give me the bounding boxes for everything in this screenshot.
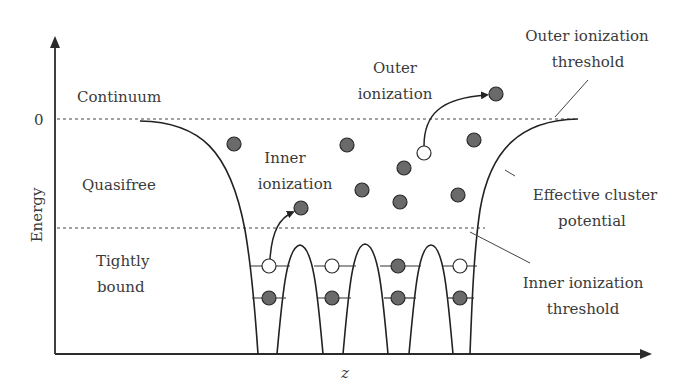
continuum-electron [489,87,503,101]
quasifree-electron [294,201,308,215]
outer-threshold-label-2: threshold [552,53,625,71]
effective-potential-leader [505,170,515,176]
inner-barrier-1 [277,245,323,354]
bound-filled-electron [391,291,405,305]
effective-cluster-potential-right [470,119,578,354]
effective-potential-label-1: Effective cluster [533,186,658,204]
cluster-ionization-diagram: 0 Energy z Continuum Quasifree Tightly b… [0,0,690,390]
inner-threshold-leader [470,232,530,263]
quasifree-electron [340,138,354,152]
quasifree-electron [227,137,241,151]
bound-filled-electron [325,291,339,305]
bound-filled-electron [391,259,405,273]
bound-empty-state [453,259,467,273]
bound-empty-state [262,259,276,273]
outer-ionization-label-2: ionization [358,85,433,103]
inner-threshold-label-1: Inner ionization [523,274,644,292]
effective-potential-label-2: potential [558,212,626,230]
quasifree-electron [397,161,411,175]
bound-empty-state [325,259,339,273]
inner-barrier-2 [343,244,388,354]
inner-ionization-arrow [270,212,293,259]
bound-filled-electron [453,291,467,305]
tightly-bound-label-2: bound [97,278,145,296]
quasifree-electron [467,133,481,147]
inner-threshold-label-2: threshold [547,300,620,318]
effective-cluster-potential-left [140,121,258,354]
outer-ionization-label-1: Outer [373,59,418,77]
quasifree-electron [451,188,465,202]
z-axis-label: z [340,364,349,382]
outer-threshold-leader [555,80,588,117]
inner-ionization-label-1: Inner [264,149,306,167]
tightly-bound-label-1: Tightly [96,252,150,270]
quasifree-electron [393,195,407,209]
continuum-label: Continuum [77,88,161,106]
outer-threshold-label-1: Outer ionization [525,27,649,45]
energy-axis-label: Energy [28,187,46,242]
quasifree-electron [355,183,369,197]
quasifree-empty-state [417,146,431,160]
inner-ionization-label-2: ionization [258,175,333,193]
bound-filled-electron [262,291,276,305]
quasifree-label: Quasifree [82,176,156,194]
zero-tick-label: 0 [34,111,44,129]
inner-barrier-3 [409,245,453,354]
